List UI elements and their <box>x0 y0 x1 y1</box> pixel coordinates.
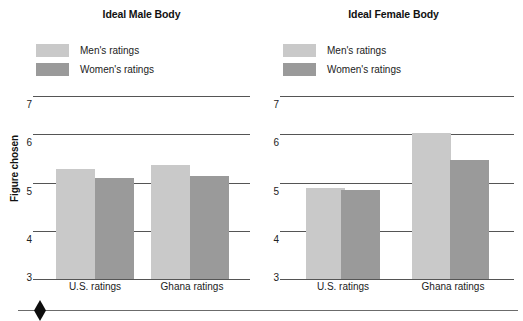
y-tick-5: 5 <box>20 186 32 197</box>
bar-female-us-mens <box>306 188 345 280</box>
bar-female-ghana-womens <box>450 160 489 279</box>
y-tick-6: 6 <box>20 137 32 148</box>
plot-area-male: 7 6 5 4 3 U.S. ratings Ghana ratings <box>0 0 261 292</box>
x-label-female-us: U.S. ratings <box>288 281 398 292</box>
bar-male-ghana-womens <box>190 176 229 279</box>
footer-rule <box>18 310 518 311</box>
chart-panel-female: Ideal Female Body Men's ratings Women's … <box>262 0 523 292</box>
bar-male-ghana-mens <box>151 165 190 279</box>
y-tick-7: 7 <box>267 99 279 110</box>
gridline-3 <box>33 279 250 280</box>
plot-area-female: 7 6 5 4 3 U.S. ratings Ghana ratings <box>262 0 523 292</box>
x-label-male-ghana: Ghana ratings <box>133 281 251 292</box>
diamond-marker-icon <box>34 300 46 321</box>
y-tick-4: 4 <box>267 234 279 245</box>
gridline-6 <box>33 134 250 135</box>
gridline-3 <box>280 279 514 280</box>
y-tick-3: 3 <box>267 272 279 283</box>
y-tick-4: 4 <box>20 234 32 245</box>
gridline-7 <box>33 96 250 97</box>
y-tick-7: 7 <box>20 99 32 110</box>
bar-male-us-womens <box>95 178 134 279</box>
y-tick-3: 3 <box>20 272 32 283</box>
y-tick-6: 6 <box>267 137 279 148</box>
bar-female-us-womens <box>341 190 380 279</box>
chart-panel-male: Ideal Male Body Men's ratings Women's ra… <box>0 0 261 292</box>
bar-male-us-mens <box>56 169 95 279</box>
bar-female-ghana-mens <box>412 133 451 279</box>
x-label-female-ghana: Ghana ratings <box>394 281 512 292</box>
gridline-6 <box>280 134 514 135</box>
gridline-7 <box>280 96 514 97</box>
y-tick-5: 5 <box>267 186 279 197</box>
